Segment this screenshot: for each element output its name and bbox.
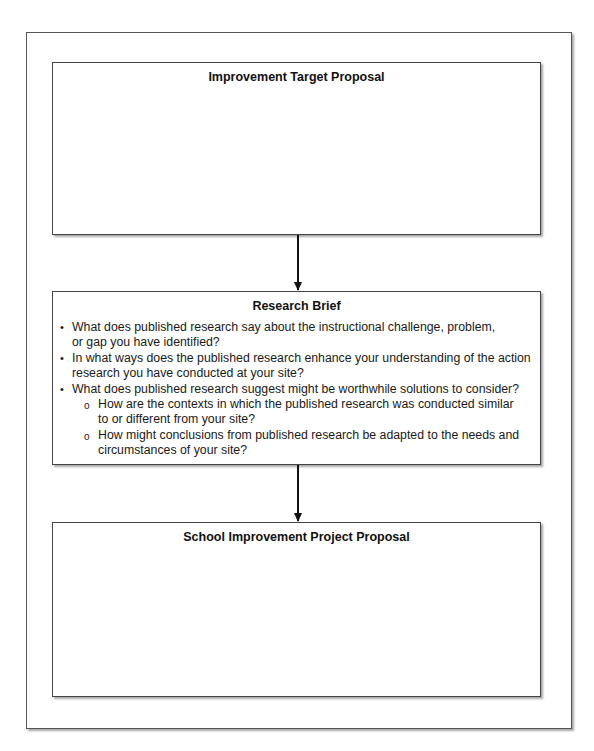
list-item-text-line: What does published research suggest mig… [72,382,519,396]
sub-list-item: o How might conclusions from published r… [53,428,540,459]
school-improvement-project-proposal-box: School Improvement Project Proposal [52,522,541,697]
box-title: Research Brief [53,299,540,313]
box-title: School Improvement Project Proposal [53,530,540,544]
hollow-bullet-icon: o [84,429,90,444]
list-item-text-line: to or different from your site? [98,412,255,426]
arrow-down-icon [297,235,299,290]
list-item: • What does published research suggest m… [53,382,540,397]
list-item-text-line: In what ways does the published research… [72,351,531,365]
list-item-text-line: circumstances of your site? [98,443,247,457]
list-item-text-line: How are the contexts in which the publis… [98,397,514,411]
list-item-text-line: How might conclusions from published res… [98,428,519,442]
research-brief-box: Research Brief • What does published res… [52,291,541,465]
arrow-down-icon [297,465,299,521]
bullet-icon: • [60,351,64,366]
bullet-icon: • [60,382,64,397]
bullet-icon: • [60,320,64,335]
list-item: • What does published research say about… [53,320,540,351]
sub-list-item: o How are the contexts in which the publ… [53,397,540,428]
list-item-text-line: or gap you have identified? [72,335,220,349]
list-item-text-line: What does published research say about t… [72,320,495,334]
improvement-target-proposal-box: Improvement Target Proposal [52,62,541,235]
list-item: • In what ways does the published resear… [53,351,540,382]
hollow-bullet-icon: o [84,398,90,413]
question-list: • What does published research say about… [53,320,540,459]
box-title: Improvement Target Proposal [53,70,540,84]
list-item-text-line: research you have conducted at your site… [72,366,304,380]
